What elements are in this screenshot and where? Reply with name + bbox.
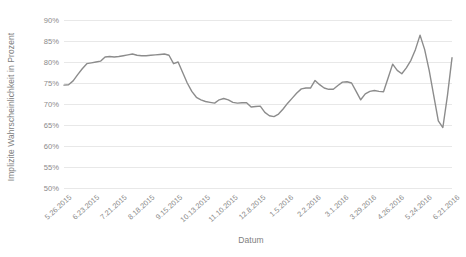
series-line-implizite-wahrscheinlichkeit xyxy=(64,35,452,127)
chart-container: 90%85%80%75%70%65%60%55%50% 5.26.20156.2… xyxy=(0,0,466,257)
x-tick-label: 6.23.2015 xyxy=(71,193,101,222)
y-tick-label: 50% xyxy=(44,184,59,193)
x-tick-label: 3.29.2016 xyxy=(348,193,378,222)
x-tick-label: 12.8.2015 xyxy=(237,193,267,222)
y-tick-label: 90% xyxy=(44,16,59,25)
x-tick-label: 4.26.2016 xyxy=(375,193,405,222)
y-tick-label: 75% xyxy=(44,79,59,88)
x-tick-label: 5.26.2015 xyxy=(43,193,73,222)
line-chart: 90%85%80%75%70%65%60%55%50% 5.26.20156.2… xyxy=(0,0,466,257)
x-tick-label: 1.5.2016 xyxy=(268,193,295,219)
y-axis-title: Implizite Wahrscheinlichkeit in Prozent xyxy=(6,32,16,181)
x-tick-label: 11.10.2015 xyxy=(207,193,240,224)
y-tick-label: 55% xyxy=(44,163,59,172)
x-tick-label: 2.2.2016 xyxy=(295,193,322,219)
x-tick-label: 7.21.2015 xyxy=(98,193,128,222)
x-tick-label: 5.24.2016 xyxy=(403,193,433,222)
y-tick-label: 70% xyxy=(44,100,59,109)
y-tick-label: 80% xyxy=(44,58,59,67)
x-tick-label: 3.1.2016 xyxy=(323,193,350,219)
x-axis-tick-labels: 5.26.20156.23.20157.21.20158.18.20159.15… xyxy=(43,193,461,224)
y-tick-label: 65% xyxy=(44,121,59,130)
x-tick-label: 10.13.2015 xyxy=(178,193,212,224)
y-tick-label: 60% xyxy=(44,142,59,151)
y-axis-tick-labels: 90%85%80%75%70%65%60%55%50% xyxy=(44,16,59,193)
y-tick-label: 85% xyxy=(44,37,59,46)
gridlines xyxy=(64,20,452,188)
x-tick-label: 8.18.2015 xyxy=(126,193,156,222)
x-axis-title: Datum xyxy=(238,235,264,245)
x-tick-label: 6.21.2016 xyxy=(431,193,461,222)
